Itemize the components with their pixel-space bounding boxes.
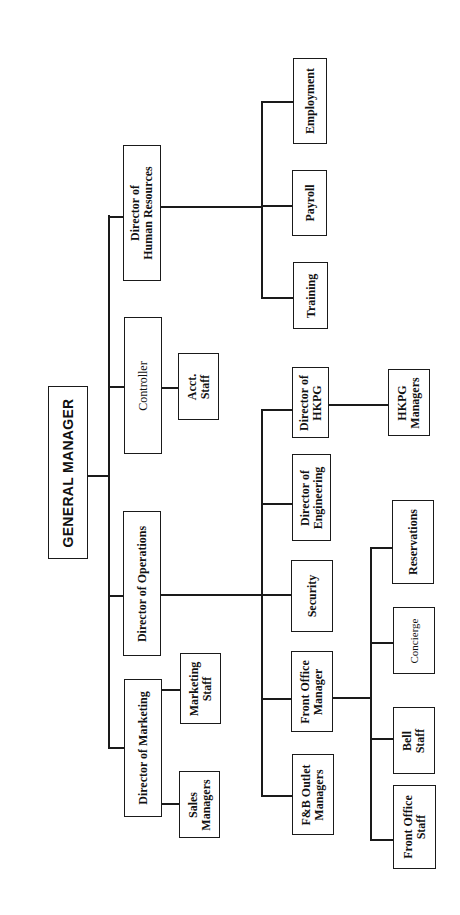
connector — [261, 297, 293, 299]
connector — [161, 387, 178, 389]
connector — [370, 738, 393, 740]
node-front-office-manager: Front Office Manager — [291, 651, 333, 732]
connector — [160, 594, 262, 596]
node-hkpg-managers: HKPG Managers — [388, 369, 430, 436]
node-security: Security — [291, 560, 333, 632]
node-marketing-staff: Marketing Staff — [180, 653, 221, 724]
node-label: Front Office Manager — [299, 660, 325, 723]
connector — [108, 747, 124, 749]
node-director-human-resources: Director of Human Resources — [123, 145, 161, 281]
node-label: Security — [306, 575, 319, 618]
connector — [161, 206, 262, 208]
node-acct-staff: Acct. Staff — [178, 353, 219, 420]
connector — [261, 409, 292, 411]
connector — [108, 216, 123, 218]
node-concierge: Concierge — [393, 607, 435, 674]
node-sales-managers: Sales Managers — [179, 771, 220, 838]
connector — [261, 205, 292, 207]
node-general-manager: GENERAL MANAGER — [48, 386, 88, 559]
connector — [162, 803, 179, 805]
connector — [261, 698, 291, 700]
node-bell-staff: Bell Staff — [393, 707, 435, 774]
node-label: Director of Engineering — [299, 466, 325, 529]
connector — [162, 689, 180, 691]
node-reservations: Reservations — [392, 500, 434, 584]
node-label: Bell Staff — [401, 728, 427, 753]
node-label: Director of Human Resources — [129, 166, 155, 259]
node-label: Payroll — [303, 184, 316, 221]
connector — [108, 595, 123, 597]
node-controller: Controller — [124, 317, 162, 454]
node-director-engineering: Director of Engineering — [292, 454, 331, 541]
connector — [261, 503, 292, 505]
connector — [261, 101, 293, 103]
connector — [261, 795, 292, 797]
node-fb-outlet-managers: F&B Outlet Managers — [292, 754, 334, 835]
node-label: Front Office Staff — [402, 795, 428, 858]
node-front-office-staff: Front Office Staff — [393, 785, 436, 869]
hr-bus — [261, 101, 263, 298]
node-label: Acct. Staff — [186, 373, 212, 399]
connector — [333, 697, 371, 699]
node-label: Employment — [304, 68, 317, 134]
connector — [108, 386, 124, 388]
node-label: Marketing Staff — [188, 661, 214, 716]
node-label: F&B Outlet Managers — [300, 764, 326, 825]
node-label: Director of HKPG — [298, 375, 324, 431]
node-label: Director of Operations — [136, 525, 149, 641]
node-director-marketing: Director of Marketing — [124, 679, 162, 817]
ops-bus — [261, 409, 263, 796]
connector — [370, 642, 393, 644]
main-bus — [108, 215, 110, 748]
fo-bus — [370, 547, 372, 840]
org-chart: GENERAL MANAGER Director of Human Resour… — [0, 0, 460, 915]
node-label: Reservations — [407, 509, 420, 575]
node-label: Controller — [137, 361, 150, 410]
node-label: GENERAL MANAGER — [62, 398, 75, 547]
node-director-hkpg: Director of HKPG — [292, 367, 329, 438]
connector — [261, 594, 291, 596]
connector — [329, 404, 388, 406]
node-director-operations: Director of Operations — [123, 511, 161, 656]
node-label: Training — [304, 273, 317, 317]
node-payroll: Payroll — [292, 170, 327, 236]
connector — [370, 839, 393, 841]
node-label: HKPG Managers — [396, 377, 422, 428]
node-training: Training — [293, 262, 328, 329]
node-employment: Employment — [293, 58, 327, 144]
node-label: Director of Marketing — [137, 691, 150, 805]
connector — [370, 547, 392, 549]
connector — [88, 475, 109, 477]
node-label: Concierge — [408, 618, 421, 663]
node-label: Sales Managers — [187, 779, 213, 830]
